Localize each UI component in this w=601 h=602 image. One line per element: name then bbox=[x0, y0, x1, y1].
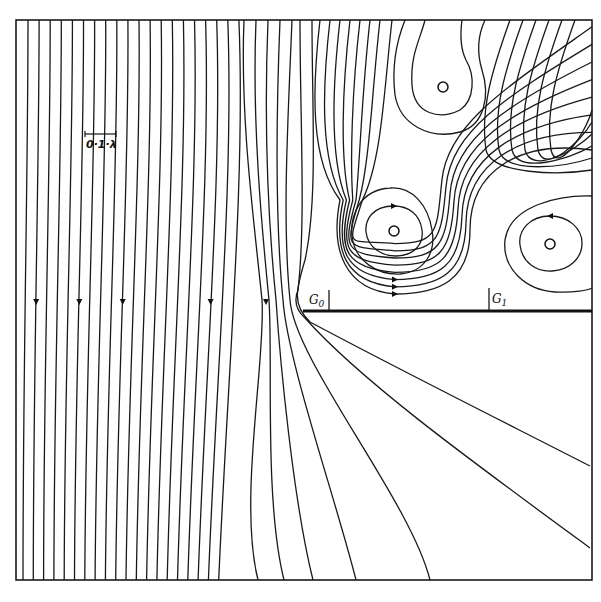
flow-arrow-icon bbox=[392, 277, 398, 283]
curved-streamline bbox=[343, 20, 592, 272]
left-streamline bbox=[167, 20, 184, 580]
flow-arrow-icon bbox=[391, 203, 397, 209]
left-streamline bbox=[44, 20, 51, 580]
flow-arrow-icon bbox=[392, 284, 398, 290]
g1-label: G1 bbox=[492, 292, 507, 308]
middle-vortex-loop bbox=[366, 206, 422, 256]
curved-streamline bbox=[347, 20, 592, 265]
middle-vortex-core-icon bbox=[389, 226, 399, 236]
streamline-figure: G0 G1 0·1·λ bbox=[0, 0, 601, 602]
g0-label: G0 bbox=[309, 293, 325, 309]
corner-streamline bbox=[510, 20, 592, 163]
upper-right-streamlines bbox=[315, 20, 592, 297]
middle-vortex-loop bbox=[352, 188, 433, 274]
left-streamline bbox=[198, 20, 218, 580]
left-streamline bbox=[105, 20, 116, 580]
fan-streamline bbox=[286, 20, 430, 580]
right-vortex-loop bbox=[520, 216, 582, 271]
flow-arrow-icon bbox=[120, 299, 126, 305]
right-vortex-loop bbox=[505, 196, 592, 292]
flow-arrow-icon bbox=[547, 213, 553, 219]
left-streamline bbox=[95, 20, 106, 580]
corner-streamline bbox=[549, 20, 592, 158]
flow-arrow-icon bbox=[392, 291, 398, 297]
fan-streamline bbox=[243, 20, 262, 580]
left-streamline bbox=[188, 20, 207, 580]
left-streamline bbox=[85, 20, 95, 580]
left-streamline bbox=[64, 20, 72, 580]
flow-arrow-icon bbox=[208, 299, 214, 305]
scale-bar-label: 0·1·λ bbox=[86, 138, 117, 151]
left-streamline bbox=[178, 20, 196, 580]
flow-arrow-icon bbox=[33, 299, 39, 305]
upper-vortex-core-icon bbox=[438, 82, 448, 92]
fan-streamline bbox=[255, 20, 284, 580]
corner-streamline bbox=[536, 20, 592, 159]
left-streamlines bbox=[23, 20, 240, 580]
left-streamline bbox=[23, 20, 28, 580]
right-vortex-core-icon bbox=[545, 239, 555, 249]
upper-vortex-loop bbox=[412, 20, 472, 115]
left-streamline bbox=[54, 20, 61, 580]
scale-bar: 0·1·λ bbox=[85, 131, 117, 151]
flow-arrow-icon bbox=[263, 299, 269, 305]
flow-arrow-icon bbox=[76, 299, 82, 305]
